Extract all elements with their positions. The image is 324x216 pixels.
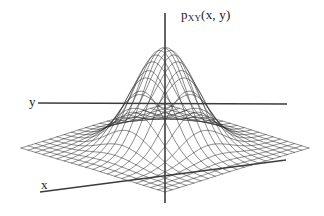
y-axis-label: y bbox=[29, 95, 36, 108]
vertical-axis-label: pXY(x, y) bbox=[181, 8, 230, 23]
y-axis-line bbox=[38, 103, 287, 104]
vertical-axis-label-args: (x, y) bbox=[201, 7, 230, 22]
surface-plot-canvas bbox=[0, 0, 324, 216]
gaussian-surface-figure: pXY(x, y) y x bbox=[0, 0, 324, 216]
vertical-axis-label-subscript: XY bbox=[188, 13, 201, 23]
vertical-axis-label-base: p bbox=[181, 7, 188, 22]
axes-lines bbox=[38, 13, 287, 203]
x-axis-label: x bbox=[41, 178, 48, 191]
